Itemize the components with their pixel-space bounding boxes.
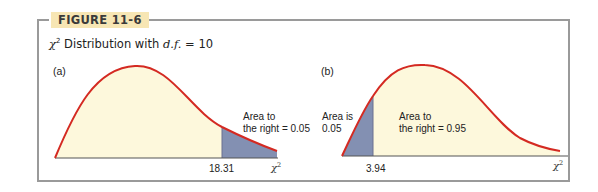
chart-svg <box>0 0 598 192</box>
panel-a-label: (a) <box>53 65 66 77</box>
panel-a-tick-label: 18.31 <box>209 163 234 175</box>
panel-b-tick-label: 3.94 <box>366 163 385 175</box>
panel-b-left-annotation: Area is 0.05 <box>322 111 353 135</box>
panel-a-area-annotation: Area to the right = 0.05 <box>243 111 310 135</box>
panel-b-label: (b) <box>321 65 334 77</box>
panel-b-right-annotation: Area to the right = 0.95 <box>399 111 466 135</box>
panel-a-axis-label: χ2 <box>271 161 281 173</box>
panel-a-fill <box>55 66 222 158</box>
panel-b-axis-label: χ2 <box>553 159 563 171</box>
